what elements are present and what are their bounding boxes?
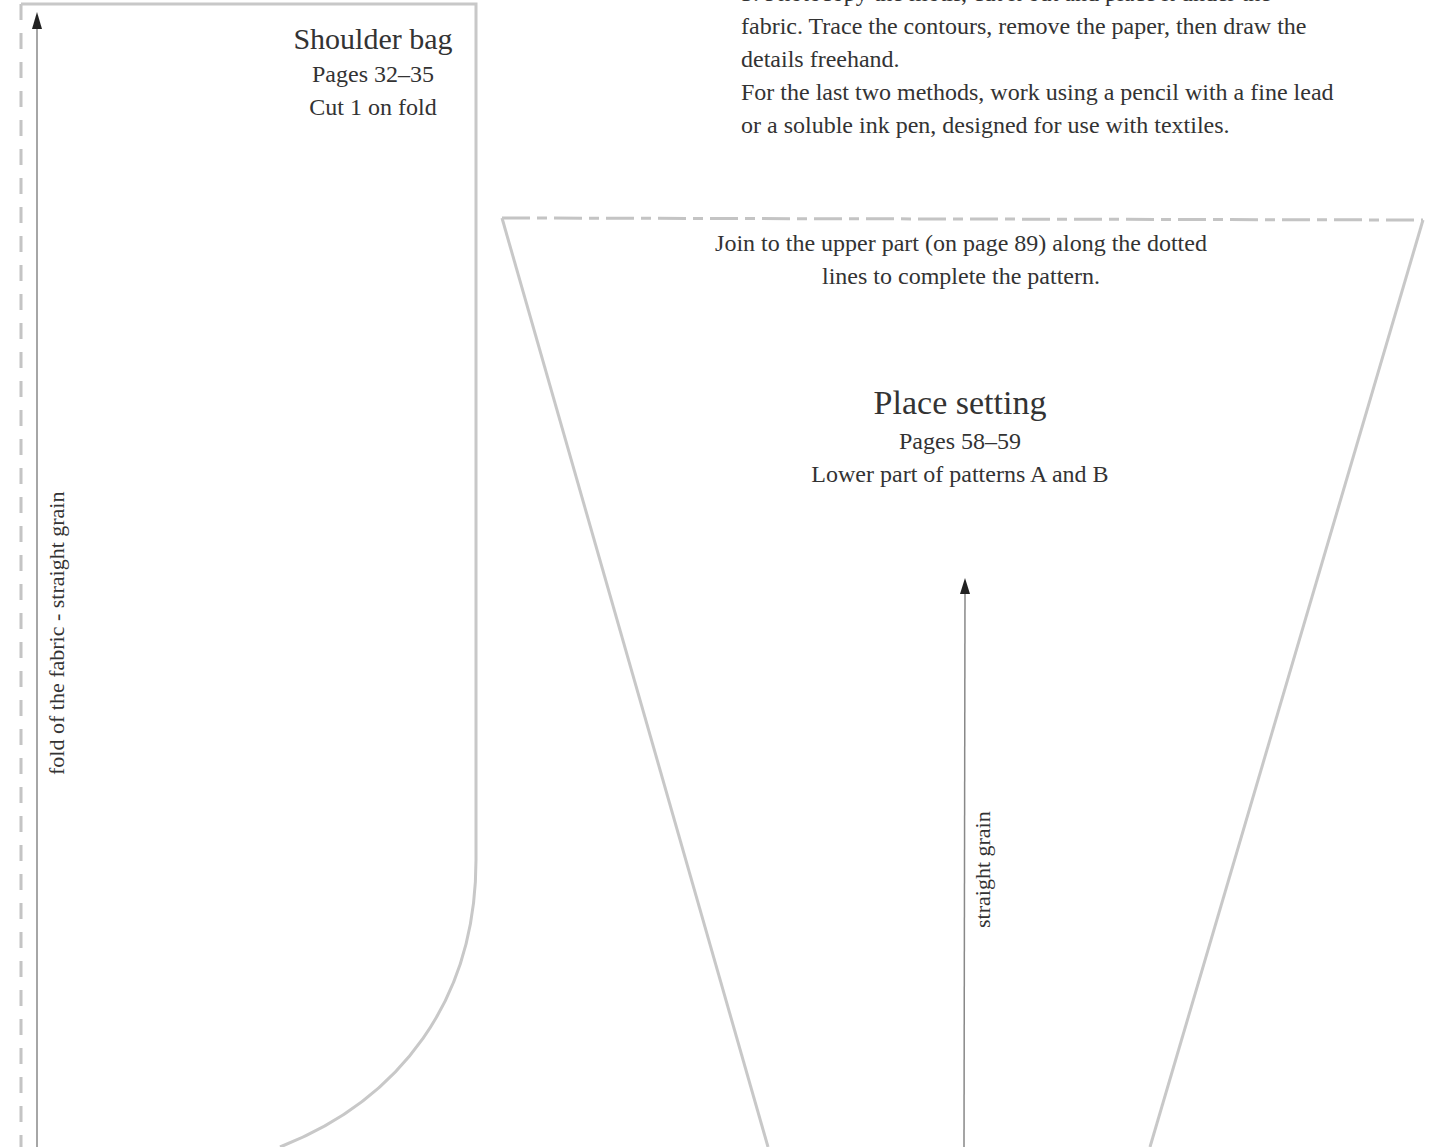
shoulder-bag-pattern: [21, 4, 476, 1147]
grain-arrow-up-icon: [32, 12, 42, 29]
grain-arrow-up-icon: [960, 578, 970, 594]
place-setting-subtitle: Lower part of patterns A and B: [760, 458, 1160, 491]
shoulder-bag-cut-note: Cut 1 on fold: [260, 91, 486, 124]
join-note-line: Join to the upper part (on page 89) alon…: [660, 227, 1262, 260]
instructions-line: or a soluble ink pen, designed for use w…: [741, 109, 1431, 142]
place-setting-title: Place setting: [760, 381, 1160, 425]
instructions-text: 3. Photocopy the motif, cut it out and p…: [741, 0, 1431, 142]
straight-grain-line: [964, 592, 965, 1147]
instructions-line: details freehand.: [741, 43, 1431, 76]
shoulder-bag-pages: Pages 32–35: [260, 58, 486, 91]
place-setting-label: Place setting Pages 58–59 Lower part of …: [760, 381, 1160, 491]
join-note-line: lines to complete the pattern.: [660, 260, 1262, 293]
join-line-dashed: [502, 218, 1423, 220]
fold-grain-label: fold of the fabric - straight grain: [44, 492, 70, 775]
instructions-line: fabric. Trace the contours, remove the p…: [741, 10, 1431, 43]
place-setting-right-edge: [1150, 220, 1423, 1147]
shoulder-bag-title: Shoulder bag: [260, 20, 486, 58]
straight-grain-label: straight grain: [970, 811, 996, 928]
shoulder-bag-outline: [21, 4, 476, 1147]
instructions-line: For the last two methods, work using a p…: [741, 76, 1431, 109]
place-setting-left-edge: [502, 218, 768, 1147]
pattern-sheet: [0, 0, 1438, 1147]
place-setting-pattern: [502, 218, 1423, 1147]
instructions-line: 3. Photocopy the motif, cut it out and p…: [741, 0, 1431, 10]
shoulder-bag-label: Shoulder bag Pages 32–35 Cut 1 on fold: [260, 20, 486, 124]
place-setting-pages: Pages 58–59: [760, 425, 1160, 458]
join-note: Join to the upper part (on page 89) alon…: [660, 227, 1262, 293]
